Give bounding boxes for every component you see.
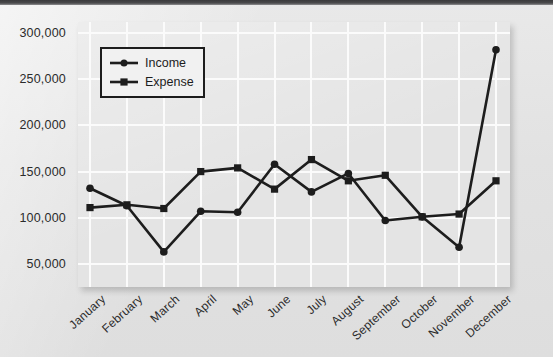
y-axis-tick-label: 200,000 bbox=[19, 118, 66, 132]
x-axis: JanuaryFebruaryMarchAprilMayJuneJulyAugu… bbox=[78, 292, 510, 354]
x-axis-tick-label: June bbox=[264, 292, 293, 320]
data-point-marker bbox=[308, 156, 315, 163]
x-axis-tick-label: February bbox=[99, 292, 145, 336]
x-axis-tick-label: May bbox=[229, 292, 256, 318]
x-axis-tick-label: March bbox=[147, 292, 182, 325]
data-point-marker bbox=[345, 177, 352, 184]
data-point-marker bbox=[160, 205, 167, 212]
y-axis-tick-label: 50,000 bbox=[27, 257, 66, 271]
data-point-marker bbox=[86, 204, 93, 211]
series-expense bbox=[86, 156, 499, 220]
data-point-marker bbox=[271, 160, 279, 168]
legend-label-expense: Expense bbox=[145, 75, 194, 89]
data-point-marker bbox=[382, 172, 389, 179]
legend-entry-income: Income bbox=[109, 53, 194, 72]
data-point-marker bbox=[86, 184, 94, 192]
data-point-marker bbox=[419, 213, 426, 220]
data-point-marker bbox=[308, 188, 316, 196]
legend-entry-expense: Expense bbox=[109, 72, 194, 91]
data-point-marker bbox=[234, 208, 242, 216]
data-point-marker bbox=[271, 186, 278, 193]
data-point-marker bbox=[492, 177, 499, 184]
y-axis-tick-label: 300,000 bbox=[19, 26, 66, 40]
data-point-marker bbox=[197, 168, 204, 175]
data-point-marker bbox=[160, 248, 168, 256]
y-axis-tick-label: 150,000 bbox=[19, 165, 66, 179]
top-edge-strip bbox=[0, 0, 553, 5]
circle-marker-icon bbox=[109, 56, 139, 70]
legend-label-income: Income bbox=[145, 56, 186, 70]
data-point-marker bbox=[123, 201, 130, 208]
x-axis-tick-label: April bbox=[191, 292, 219, 319]
x-axis-tick-label: July bbox=[304, 292, 330, 317]
y-axis-tick-label: 100,000 bbox=[19, 211, 66, 225]
y-axis-tick-label: 250,000 bbox=[19, 72, 66, 86]
data-point-marker bbox=[234, 164, 241, 171]
legend: Income Expense bbox=[100, 47, 205, 98]
data-point-marker bbox=[492, 46, 500, 54]
data-point-marker bbox=[455, 243, 463, 251]
y-axis: 50,000100,000150,000200,000250,000300,00… bbox=[0, 22, 72, 287]
square-marker-icon bbox=[109, 75, 139, 89]
data-point-marker bbox=[197, 207, 205, 215]
data-point-marker bbox=[381, 217, 389, 225]
data-point-marker bbox=[345, 170, 353, 178]
series-line bbox=[90, 160, 496, 217]
data-point-marker bbox=[455, 210, 462, 217]
chart-screenshot: 50,000100,000150,000200,000250,000300,00… bbox=[0, 0, 553, 357]
